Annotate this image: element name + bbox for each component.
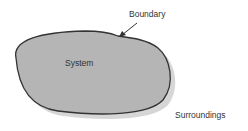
boundary-label: Boundary: [129, 9, 166, 19]
surroundings-label: Surroundings: [175, 110, 226, 120]
boundary-arrow: [122, 23, 137, 35]
system-diagram: Boundary System Surroundings: [0, 0, 248, 131]
system-region: [16, 31, 171, 114]
system-label: System: [65, 58, 93, 68]
